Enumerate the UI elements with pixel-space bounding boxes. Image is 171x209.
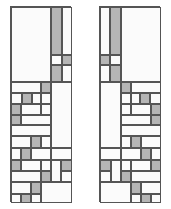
left-panel	[10, 6, 71, 202]
cell-r-07	[110, 65, 121, 82]
cell-l-34	[41, 171, 51, 182]
cell-r-18	[121, 115, 151, 125]
cell-r-05	[110, 55, 121, 65]
cell-r-28	[100, 160, 111, 171]
cell-r-40	[141, 194, 151, 203]
cell-r-17	[151, 104, 161, 115]
cell-l-05	[62, 55, 72, 65]
cell-l-23	[41, 136, 51, 148]
cell-r-39	[131, 194, 141, 203]
cell-l-22	[31, 136, 41, 148]
cell-r-24	[100, 148, 121, 160]
cell-r-06	[100, 65, 110, 82]
cell-l-28	[11, 160, 21, 171]
cell-r-22	[131, 136, 141, 148]
cell-l-13	[32, 93, 41, 104]
cell-l-32	[61, 160, 72, 171]
cell-l-35	[61, 171, 72, 182]
cell-l-25	[21, 148, 31, 160]
cell-l-07	[62, 65, 72, 82]
cell-r-36	[100, 182, 131, 203]
cell-l-09	[41, 82, 51, 93]
cell-r-35	[131, 171, 161, 182]
cell-r-41	[151, 194, 161, 203]
cell-l-33	[11, 171, 41, 182]
cell-l-08	[11, 82, 41, 93]
cell-l-02	[51, 7, 62, 55]
cell-r-13	[140, 93, 150, 104]
cell-l-24	[11, 148, 21, 160]
cell-r-15	[121, 104, 131, 115]
cell-l-18	[11, 115, 21, 125]
cell-l-11	[11, 93, 22, 104]
cell-r-03	[121, 7, 161, 82]
cell-r-25	[121, 148, 141, 160]
cell-r-20	[121, 125, 161, 136]
cell-r-02	[110, 7, 121, 55]
cell-r-38	[141, 182, 161, 194]
cell-l-12	[22, 93, 32, 104]
cell-r-37	[131, 182, 141, 194]
cell-l-04	[51, 55, 62, 65]
cell-r-10	[131, 82, 161, 93]
cell-l-29	[21, 160, 41, 171]
cell-r-08	[100, 82, 121, 148]
cell-l-10	[51, 82, 72, 148]
right-panel	[99, 6, 160, 202]
cell-l-31	[51, 160, 61, 182]
cell-r-26	[141, 148, 151, 160]
cell-l-41	[31, 194, 41, 203]
cell-r-11	[121, 93, 131, 104]
cell-r-21	[121, 136, 131, 148]
cell-r-29	[111, 160, 121, 182]
cell-l-14	[41, 93, 51, 104]
cell-r-23	[141, 136, 161, 148]
cell-r-12	[131, 93, 140, 104]
cell-r-34	[121, 171, 131, 182]
cell-l-15	[11, 104, 21, 115]
cell-r-32	[151, 160, 161, 171]
cell-l-40	[21, 194, 31, 203]
cell-r-27	[151, 148, 161, 160]
cell-r-14	[150, 93, 161, 104]
dissection-figure	[0, 0, 171, 209]
cell-l-16	[21, 104, 41, 115]
cell-r-31	[131, 160, 151, 171]
cell-r-33	[100, 171, 111, 182]
cell-l-37	[31, 182, 41, 194]
cell-r-04	[100, 55, 110, 65]
cell-r-30	[121, 160, 131, 171]
cell-l-30	[41, 160, 51, 171]
cell-l-26	[31, 148, 51, 160]
cell-r-19	[151, 115, 161, 125]
cell-r-01	[100, 7, 110, 55]
cell-l-19	[21, 115, 51, 125]
cell-l-36	[11, 182, 31, 194]
cell-l-21	[11, 136, 31, 148]
cell-r-09	[121, 82, 131, 93]
cell-l-01	[11, 7, 51, 82]
cell-l-20	[11, 125, 51, 136]
cell-r-16	[131, 104, 151, 115]
cell-l-38	[41, 182, 72, 203]
cell-l-27	[51, 148, 72, 160]
cell-l-03	[62, 7, 72, 55]
cell-l-17	[41, 104, 51, 115]
cell-l-39	[11, 194, 21, 203]
cell-l-06	[51, 65, 62, 82]
